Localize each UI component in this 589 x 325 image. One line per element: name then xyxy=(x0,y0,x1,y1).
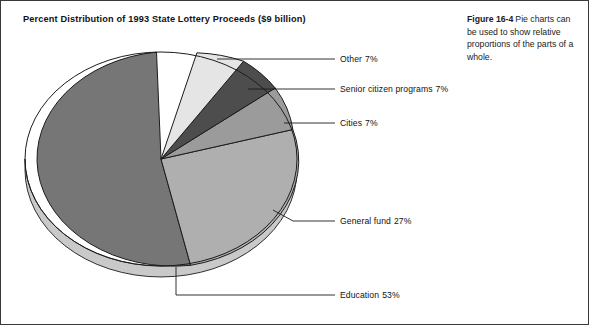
slice-label-cities-percent: 7% xyxy=(365,118,378,128)
figure-container: Percent Distribution of 1993 State Lotte… xyxy=(0,0,589,325)
slice-label-senior-text: Senior citizen programs xyxy=(340,84,433,94)
slice-label-other: Other7% xyxy=(340,54,378,64)
slice-label-general-fund-text: General fund xyxy=(340,216,391,226)
figure-number: Figure 16-4 xyxy=(467,14,513,24)
slice-label-cities-text: Cities xyxy=(340,118,362,128)
slice-label-education-text: Education xyxy=(340,290,379,300)
slice-label-other-percent: 7% xyxy=(365,54,378,64)
slice-label-general-fund-percent: 27% xyxy=(394,216,412,226)
figure-caption: Figure 16-4Pie charts can be used to sho… xyxy=(467,13,579,63)
slice-label-education-percent: 53% xyxy=(382,290,400,300)
pie-slices xyxy=(25,52,299,266)
slice-label-general-fund: General fund27% xyxy=(340,216,411,226)
slice-label-senior-percent: 7% xyxy=(436,84,449,94)
slice-label-education: Education53% xyxy=(340,290,400,300)
slice-label-cities: Cities7% xyxy=(340,118,378,128)
slice-label-other-text: Other xyxy=(340,54,362,64)
slice-label-senior-citizen-programs: Senior citizen programs7% xyxy=(340,84,448,94)
